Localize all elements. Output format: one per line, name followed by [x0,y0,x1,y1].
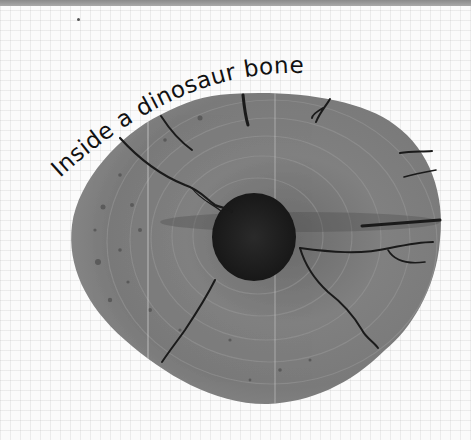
bone-illustration: Inside a dinosaur bone [0,0,471,440]
marrow-cavity [212,193,296,281]
